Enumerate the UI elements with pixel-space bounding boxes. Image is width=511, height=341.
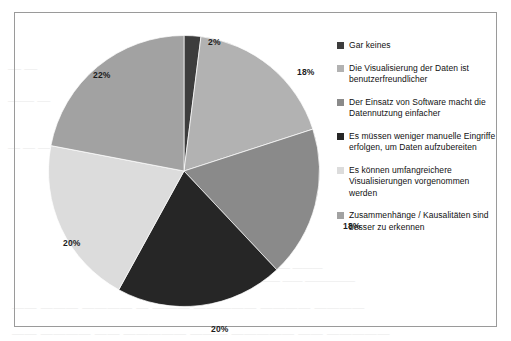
legend-item[interactable]: Es müssen weniger manuelle Eingriffe erf…: [337, 131, 497, 154]
legend-item-label: Der Einsatz von Software macht die Daten…: [349, 97, 497, 120]
chart-legend: Gar keinesDie Visualisierung der Daten i…: [337, 40, 497, 244]
scan-artifact-text: —— ———— —— ————— ——— ————— —— —————: [12, 326, 390, 341]
legend-item-label: Zusammenhänge / Kausalitäten sind besser…: [349, 210, 497, 233]
pie-slice-percentage-label: 22%: [93, 70, 111, 80]
legend-color-swatch-icon: [337, 212, 344, 219]
pie-slice-percentage-label: 2%: [208, 37, 221, 47]
legend-item-label: Es können umfangreichere Visualisierunge…: [349, 165, 497, 200]
plot-area: 2%18%18%20%20%22% Gar keinesDie Visualis…: [15, 13, 496, 326]
pie-slice-group: [48, 36, 319, 307]
legend-item-label: Gar keines: [349, 40, 391, 52]
chart-frame: 2%18%18%20%20%22% Gar keinesDie Visualis…: [14, 12, 497, 327]
pie-slice-percentage-label: 20%: [211, 324, 229, 334]
legend-color-swatch-icon: [337, 65, 344, 72]
pie-svg: [48, 35, 320, 307]
legend-item[interactable]: Gar keines: [337, 40, 497, 52]
legend-item[interactable]: Der Einsatz von Software macht die Daten…: [337, 97, 497, 120]
legend-color-swatch-icon: [337, 99, 344, 106]
legend-color-swatch-icon: [337, 42, 344, 49]
legend-color-swatch-icon: [337, 133, 344, 140]
pie-slice-percentage-label: 18%: [297, 67, 315, 77]
legend-item-label: Die Visualisierung der Daten ist benutze…: [349, 63, 497, 86]
legend-item[interactable]: Es können umfangreichere Visualisierunge…: [337, 165, 497, 200]
pie-chart: 2%18%18%20%20%22%: [48, 35, 320, 307]
legend-color-swatch-icon: [337, 167, 344, 174]
pie-slice-percentage-label: 20%: [63, 238, 81, 248]
legend-item[interactable]: Die Visualisierung der Daten ist benutze…: [337, 63, 497, 86]
legend-item-label: Es müssen weniger manuelle Eingriffe erf…: [349, 131, 497, 154]
legend-item[interactable]: Zusammenhänge / Kausalitäten sind besser…: [337, 210, 497, 233]
